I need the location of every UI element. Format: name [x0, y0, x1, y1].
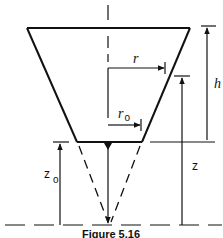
figure-caption: Figure 5.16	[82, 228, 140, 238]
center-down-arrow-icon	[104, 143, 112, 150]
cone-extension-dashed	[79, 146, 140, 222]
diagram-svg: r ro h z zo Figure 5.16	[0, 0, 223, 238]
r0-label: ro	[118, 106, 130, 123]
z-label: z	[192, 159, 198, 173]
h-label: h	[214, 76, 221, 91]
frustum-diagram: r ro h z zo Figure 5.16	[0, 0, 223, 238]
r-label: r	[133, 51, 139, 66]
z-dimension	[174, 76, 190, 225]
z0-label: zo	[44, 167, 59, 185]
